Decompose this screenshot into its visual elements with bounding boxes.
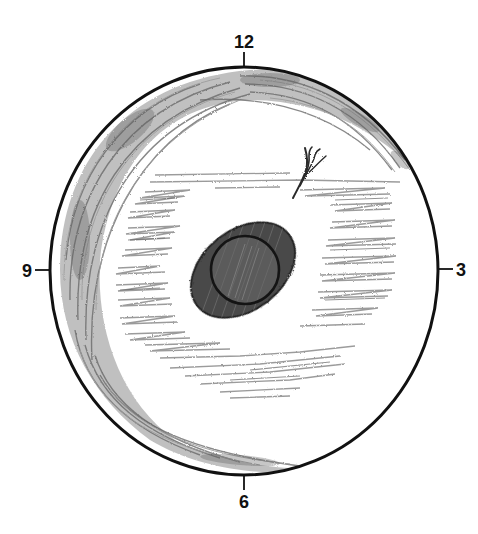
clock-label-6: 6: [239, 492, 249, 512]
clock-label-12: 12: [234, 32, 254, 52]
fundus-diagram: 12 3 6 9: [0, 0, 478, 534]
clock-label-9: 9: [22, 261, 32, 281]
clock-label-3: 3: [456, 260, 466, 280]
inner-circle: [211, 236, 279, 304]
central-lesion: [173, 203, 314, 337]
